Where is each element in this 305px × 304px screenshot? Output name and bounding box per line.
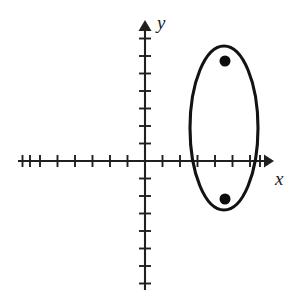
coordinate-plane-svg [0, 0, 305, 304]
focus-point-lower [220, 194, 231, 205]
x-axis-arrow-icon [264, 155, 274, 168]
x-axis-label: x [275, 169, 283, 188]
graph-figure: y x [0, 0, 305, 304]
y-axis-label: y [157, 13, 165, 32]
focus-point-upper [220, 56, 231, 67]
ellipse-curve [190, 46, 258, 210]
y-axis-arrow-icon [139, 20, 152, 31]
